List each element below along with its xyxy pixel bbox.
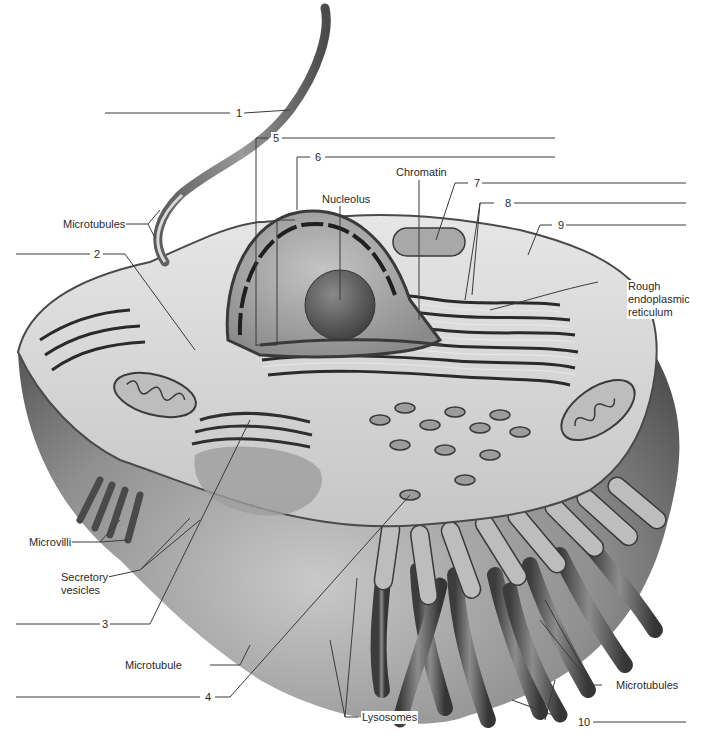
label-rough-er-line2: endoplasmic	[628, 293, 690, 306]
label-secretory-line1: Secretory	[61, 571, 108, 584]
label-nucleolus: Nucleolus	[321, 193, 371, 206]
label-secretory-line2: vesicles	[61, 584, 108, 597]
blank-number-5: 5	[271, 132, 281, 144]
label-rough-er-line3: reticulum	[628, 306, 690, 319]
label-microtubule: Microtubule	[124, 659, 183, 672]
blank-number-6: 6	[313, 151, 323, 163]
cell-illustration	[0, 0, 702, 754]
cell-diagram: 1 2 3 4 5 6 7 8 9 10 Microtubules Nucleo…	[0, 0, 702, 754]
blank-number-10: 10	[576, 716, 592, 728]
label-lysosomes: Lysosomes	[361, 711, 418, 724]
label-rough-er-line1: Rough	[628, 280, 690, 293]
label-microvilli: Microvilli	[28, 536, 72, 549]
label-secretory-vesicles: Secretory vesicles	[60, 571, 109, 597]
blank-number-7: 7	[472, 177, 482, 189]
blank-number-3: 3	[100, 618, 110, 630]
blank-number-8: 8	[503, 197, 513, 209]
blank-number-4: 4	[203, 691, 213, 703]
blank-number-9: 9	[556, 219, 566, 231]
label-microtubules-cilia: Microtubules	[615, 679, 679, 692]
label-microtubules-flagellum: Microtubules	[62, 218, 126, 231]
blank-number-1: 1	[234, 107, 244, 119]
label-rough-er: Rough endoplasmic reticulum	[627, 280, 691, 319]
label-chromatin: Chromatin	[395, 166, 448, 179]
mitochondrion-top	[393, 228, 465, 256]
blank-number-2: 2	[92, 248, 102, 260]
